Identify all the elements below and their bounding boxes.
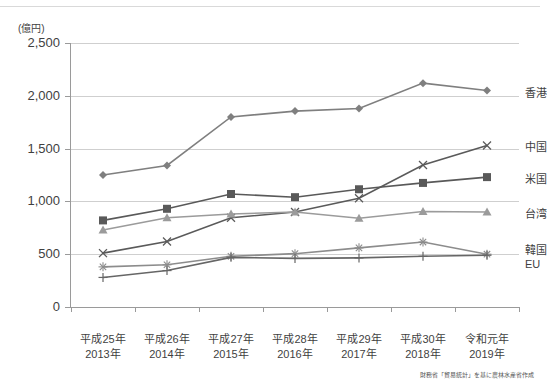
square-marker [483,173,491,181]
diamond-marker [291,107,299,115]
series-line [103,83,487,175]
series-0 [99,79,491,179]
square-marker [99,216,107,224]
star-marker [355,243,364,252]
square-marker [355,185,363,193]
star-marker [99,262,108,271]
square-marker [419,179,427,187]
plus-marker [291,254,300,263]
square-marker [291,193,299,201]
source-note: 財務省「貿易統計」を基に農林水産省作成 [420,370,534,379]
square-marker [163,205,171,213]
diamond-marker [483,87,491,95]
series-2 [99,173,491,224]
legend-item-米国: 米国 [525,170,547,186]
legend-item-香港: 香港 [525,84,547,100]
plus-marker [355,253,364,262]
x-marker [419,161,427,169]
series-5 [99,251,492,282]
square-marker [227,190,235,198]
plus-marker [99,273,108,282]
diamond-marker [419,79,427,87]
plus-marker [483,251,492,260]
legend-item-韓国: 韓国 [525,241,547,257]
legend-item-台湾: 台湾 [525,205,547,221]
legend-item-EU: EU [525,258,540,270]
plus-marker [419,252,428,261]
legend-item-中国: 中国 [525,138,547,154]
diamond-marker [99,171,107,179]
star-marker [419,238,428,247]
x-marker [483,141,491,149]
plus-marker [227,253,236,262]
diamond-marker [355,104,363,112]
